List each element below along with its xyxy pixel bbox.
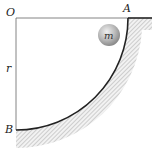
label-mass: m (104, 30, 113, 41)
label-point-b: B (4, 123, 13, 136)
label-origin: O (6, 6, 15, 19)
label-point-a: A (122, 2, 131, 15)
label-radius: r (6, 62, 12, 75)
quarter-circle-track-diagram: O A B r m (0, 0, 155, 157)
